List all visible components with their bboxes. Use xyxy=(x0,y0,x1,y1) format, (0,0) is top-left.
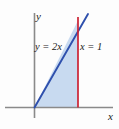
x-axis-label: x xyxy=(108,111,113,122)
math-figure: y x y = 2x x = 1 xyxy=(0,0,119,129)
vertical-line-equation-label: x = 1 xyxy=(80,42,102,53)
line-equation-label: y = 2x xyxy=(35,42,62,53)
y-axis-label: y xyxy=(36,11,41,22)
figure-canvas xyxy=(0,0,119,129)
